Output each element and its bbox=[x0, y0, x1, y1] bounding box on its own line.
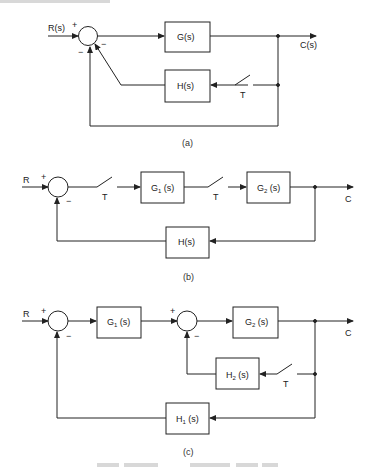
feedback-to-h-arrow bbox=[210, 187, 315, 241]
h-block-label: H(s) bbox=[177, 81, 194, 91]
h2-feedback-arrow bbox=[187, 332, 216, 374]
sampler1-label: T bbox=[102, 192, 108, 202]
h1-label: H1 (s) bbox=[176, 414, 199, 425]
input-label: R bbox=[23, 175, 30, 185]
minus-sign-right: − bbox=[101, 39, 106, 49]
minus-sign-1: − bbox=[66, 331, 71, 341]
output-label: C bbox=[345, 194, 352, 204]
cut-off-header-text bbox=[0, 0, 110, 3]
summing-junction bbox=[79, 27, 98, 46]
caption-b: (b) bbox=[183, 272, 194, 282]
h1-feedback-arrow bbox=[57, 332, 166, 418]
sampler-switch-blade bbox=[235, 75, 250, 85]
plus-sign-2: + bbox=[170, 306, 175, 316]
output-label: C(s) bbox=[300, 40, 317, 50]
block-diagrams-canvas: R(s) + − − G(s) H(s) T C(s) (a) R + − T … bbox=[0, 0, 373, 471]
minus-sign-2: − bbox=[194, 331, 199, 341]
summing-junction-2 bbox=[177, 311, 197, 331]
summing-junction bbox=[48, 177, 68, 197]
g-block-label: G(s) bbox=[177, 32, 195, 42]
sampler1-switch bbox=[97, 177, 112, 187]
g2-label: G2 (s) bbox=[245, 317, 268, 328]
sampler2-switch bbox=[208, 177, 223, 187]
figure-caption-faded bbox=[97, 463, 278, 467]
output-label: C bbox=[345, 328, 352, 338]
minus-sign-bottom: − bbox=[78, 47, 83, 57]
g1-label: G1 (s) bbox=[107, 317, 130, 328]
input-label: R(s) bbox=[48, 23, 65, 33]
h-feedback-arrow bbox=[57, 198, 166, 241]
plus-sign-1: + bbox=[41, 306, 46, 316]
sampler-label: T bbox=[240, 90, 246, 100]
h2-label: H2 (s) bbox=[226, 370, 249, 381]
summing-junction-1 bbox=[48, 311, 68, 331]
sampler-switch bbox=[277, 364, 292, 374]
caption-a: (a) bbox=[182, 138, 193, 148]
plus-sign: + bbox=[41, 172, 46, 182]
minus-sign: − bbox=[66, 196, 71, 206]
h-feedback-arrow bbox=[95, 44, 165, 85]
caption-c: (c) bbox=[183, 447, 194, 457]
input-label: R bbox=[23, 309, 30, 319]
g1-label: G1 (s) bbox=[151, 183, 174, 194]
h-block-label: H(s) bbox=[178, 237, 195, 247]
sampler-label: T bbox=[283, 379, 289, 389]
plus-sign: + bbox=[72, 20, 77, 30]
sampler2-label: T bbox=[213, 192, 219, 202]
g2-label: G2 (s) bbox=[257, 183, 280, 194]
